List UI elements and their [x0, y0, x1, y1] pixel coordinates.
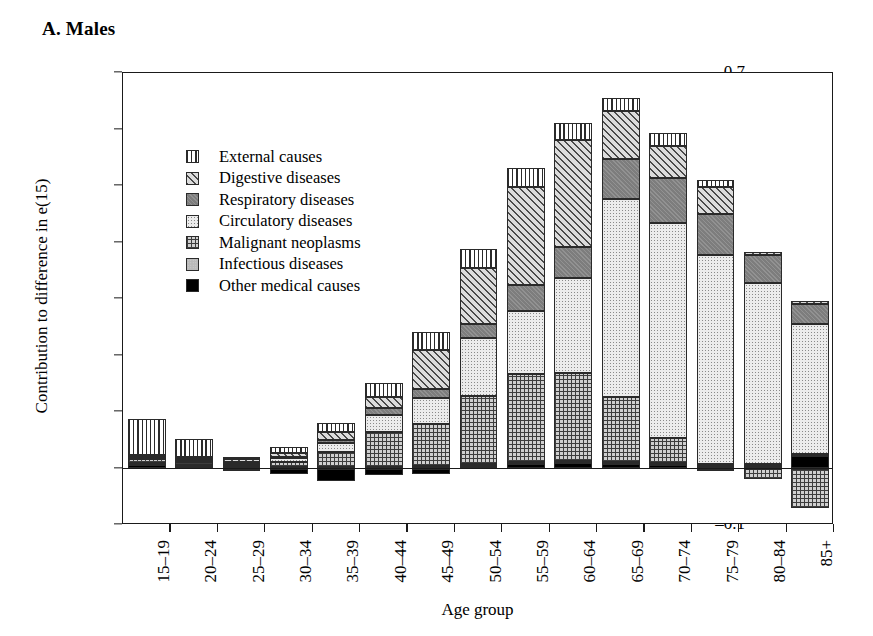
y-axis-title: Contribution to difference in e(15)	[32, 96, 52, 496]
x-tick-label: 50–54	[486, 540, 506, 583]
bar-segment-digestive	[317, 432, 355, 440]
bar-segment-digestive	[507, 187, 545, 286]
bar-segment-external	[317, 423, 355, 432]
bar-segment-digestive	[697, 187, 735, 214]
bar-segment-digestive	[791, 301, 829, 304]
bar-segment-respiratory	[317, 440, 355, 443]
bar-segment-digestive	[649, 146, 687, 178]
bars-container	[123, 73, 832, 523]
x-tick-mark	[312, 524, 313, 532]
x-tick-mark	[406, 524, 407, 532]
bar-segment-malignant	[270, 462, 308, 468]
bar-segment-digestive	[270, 453, 308, 456]
legend-swatch-infectious-icon	[186, 258, 199, 271]
bar-segment-infectious	[128, 463, 166, 465]
x-tick-label: 55–59	[533, 540, 553, 583]
bar-segment-circulatory	[460, 338, 498, 396]
y-tick-mark	[114, 241, 122, 242]
bar-segment-respiratory	[460, 324, 498, 338]
legend: External causesDigestive diseasesRespira…	[186, 146, 361, 297]
x-tick-mark	[549, 524, 550, 532]
bar-segment-malignant	[460, 396, 498, 464]
x-tick-mark	[169, 524, 170, 532]
bar-segment-respiratory	[412, 389, 450, 398]
legend-swatch-circulatory-icon	[186, 215, 199, 228]
legend-label: Malignant neoplasms	[219, 233, 361, 253]
x-tick-mark	[691, 524, 692, 532]
bar-segment-respiratory	[175, 459, 213, 461]
x-tick-label: 45–49	[438, 540, 458, 583]
bar-segment-respiratory	[649, 178, 687, 223]
legend-item-other: Other medical causes	[186, 275, 361, 297]
bar-segment-infectious	[697, 464, 735, 466]
bar-segment-circulatory	[554, 278, 592, 373]
legend-item-respiratory: Respiratory diseases	[186, 189, 361, 211]
bar-segment-infectious	[460, 464, 498, 466]
bar-segment-digestive	[223, 459, 261, 461]
plot-area	[122, 72, 833, 524]
legend-label: Circulatory diseases	[219, 211, 352, 231]
bar-segment-respiratory	[554, 247, 592, 278]
bar-segment-digestive	[744, 252, 782, 255]
y-tick-mark	[114, 184, 122, 185]
bar-segment-infectious	[602, 462, 640, 464]
bar-segment-malignant	[317, 452, 355, 467]
bar-segment-external	[460, 249, 498, 268]
bar-segment-circulatory	[744, 283, 782, 464]
x-tick-mark	[596, 524, 597, 532]
legend-swatch-digestive-icon	[186, 172, 199, 185]
bar-segment-malignant	[602, 397, 640, 462]
bar-segment-other	[791, 456, 829, 468]
x-tick-label: 75–79	[723, 540, 743, 583]
x-tick-label: 60–64	[580, 540, 600, 583]
bar-segment-external	[175, 439, 213, 457]
x-tick-mark	[833, 524, 834, 532]
bar-segment-infectious	[175, 465, 213, 467]
bar-segment-respiratory	[365, 408, 403, 415]
bar-segment-circulatory	[365, 415, 403, 432]
bar-segment-external	[697, 180, 735, 187]
bar-segment-infectious	[791, 454, 829, 456]
bar-segment-respiratory	[602, 159, 640, 199]
legend-item-infectious: Infectious diseases	[186, 254, 361, 276]
x-tick-label: 85+	[817, 540, 837, 567]
bar-segment-external	[602, 98, 640, 111]
bar-segment-infectious	[744, 464, 782, 466]
bar-segment-infectious	[507, 462, 545, 464]
y-tick-mark	[114, 523, 122, 524]
page-title: A. Males	[42, 18, 115, 40]
bar-segment-digestive	[175, 457, 213, 459]
x-tick-mark	[501, 524, 502, 532]
bar-segment-other	[412, 469, 450, 475]
bar-segment-digestive	[554, 140, 592, 247]
bar-segment-malignant	[175, 462, 213, 465]
x-tick-mark	[786, 524, 787, 532]
x-tick-label: 35–39	[343, 540, 363, 583]
bar-segment-digestive	[128, 455, 166, 457]
bar-segment-external	[128, 419, 166, 455]
bar-segment-digestive	[460, 268, 498, 325]
bar-segment-circulatory	[317, 443, 355, 452]
x-axis-title: Age group	[122, 600, 833, 620]
x-tick-mark	[217, 524, 218, 532]
y-tick-mark	[114, 297, 122, 298]
legend-label: Respiratory diseases	[219, 190, 354, 210]
bar-segment-external	[270, 447, 308, 453]
bar-segment-circulatory	[602, 199, 640, 397]
bar-segment-infectious	[649, 463, 687, 465]
legend-label: Infectious diseases	[219, 254, 343, 274]
legend-swatch-malignant-icon	[186, 236, 199, 249]
bar-segment-infectious	[554, 461, 592, 463]
bar-segment-respiratory	[507, 285, 545, 310]
bar-segment-other	[317, 469, 355, 481]
x-tick-mark	[454, 524, 455, 532]
bar-segment-respiratory	[791, 304, 829, 324]
bar-segment-malignant	[744, 469, 782, 479]
bar-segment-respiratory	[697, 214, 735, 255]
legend-item-digestive: Digestive diseases	[186, 168, 361, 190]
bar-segment-circulatory	[507, 311, 545, 374]
legend-label: Digestive diseases	[219, 168, 340, 188]
y-tick-mark	[114, 467, 122, 468]
bar-segment-malignant	[649, 438, 687, 463]
zero-line	[123, 468, 832, 470]
